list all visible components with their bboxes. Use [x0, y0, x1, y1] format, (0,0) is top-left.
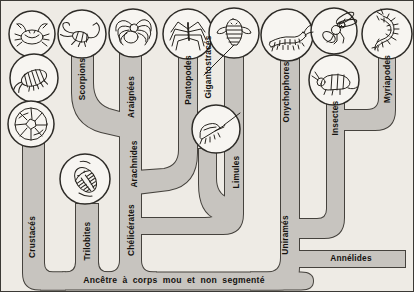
branch-label-arachnides: Arachnides: [130, 140, 138, 187]
springtail-circle: [309, 55, 359, 105]
branch-label-myriapodes: Myriapodes: [383, 55, 391, 103]
branch-label-chelicerates: Chélicérates: [127, 204, 135, 256]
branch-label-annelides: Annélides: [330, 254, 371, 262]
spider-circle: [109, 9, 157, 57]
scorpion-circle: [58, 10, 106, 58]
branch-label-scorpions: Scorpions: [78, 58, 86, 100]
branch-label-insectes: Insectes: [331, 101, 339, 136]
branch-label-araignees: Araignées: [127, 76, 135, 118]
branch-label-limules: Limules: [232, 156, 240, 189]
branch-label-gigantostraces: Gigantostracés: [204, 35, 212, 98]
centipede-circle: [362, 9, 412, 59]
branch-label-unirames: Uniramés: [281, 215, 289, 254]
phylogeny-figure: Crustacés Trilobites Chélicérates Arachn…: [0, 0, 414, 292]
branch-label-onychophores: Onychophores: [282, 62, 290, 123]
root-ancestor-label: Ancêtre à corps mou et non segmenté: [83, 276, 265, 285]
branch-label-trilobites: Trilobites: [83, 222, 91, 261]
branch-label-pantopodes: Pantopodes: [184, 55, 192, 104]
fly-circle: [311, 8, 357, 54]
horseshoe-crab-circle: [192, 105, 240, 153]
branch-label-crustaces: Crustacés: [28, 216, 36, 258]
